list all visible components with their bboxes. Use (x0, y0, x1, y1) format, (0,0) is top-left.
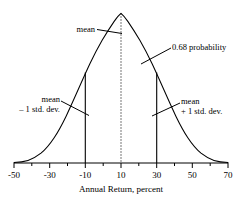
annotation-minus-one-sd: mean – 1 std. dev. (2, 94, 60, 115)
annotation-plus-one-sd-line1: mean (181, 96, 222, 106)
x-tick-label-minus-10: -10 (79, 170, 91, 180)
x-tick-label-70: 70 (224, 170, 233, 180)
annotation-plus-one-sd-line2: + 1 std. dev. (181, 106, 222, 116)
annotation-probability-label: 0.68 probability (172, 42, 226, 52)
x-axis-title: Annual Return, percent (79, 184, 163, 194)
x-tick-label-50: 50 (188, 170, 197, 180)
x-tick-label-10: 10 (117, 170, 126, 180)
annotation-minus-one-sd-line2: – 1 std. dev. (2, 104, 60, 114)
x-tick-label-minus-50: -50 (8, 170, 20, 180)
annotation-probability: 0.68 probability (172, 42, 226, 52)
annotation-mean-label: mean (77, 24, 95, 34)
x-tick-label-minus-30: -30 (44, 170, 56, 180)
annotation-mean: mean (62, 24, 95, 34)
annotation-plus-one-sd: mean + 1 std. dev. (181, 96, 222, 117)
x-tick-label-30: 30 (152, 170, 161, 180)
x-axis-major-ticks (14, 163, 228, 168)
normal-distribution-figure: mean 0.68 probability mean – 1 std. dev.… (0, 0, 243, 205)
annotation-minus-one-sd-line1: mean (2, 94, 60, 104)
mean-leader-line (97, 30, 122, 34)
